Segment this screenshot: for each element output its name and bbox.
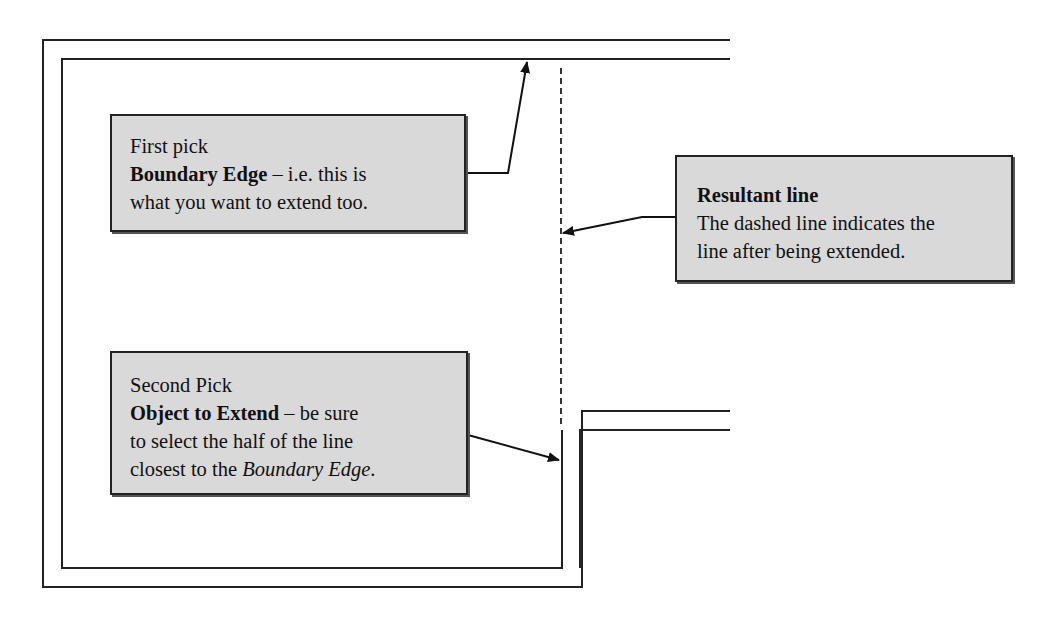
callout-second-pick: Second Pick Object to Extend – be sure t… [110, 351, 468, 495]
object-to-extend-term: Object to Extend [130, 402, 279, 424]
second-pick-line-2: Object to Extend – be sure [130, 399, 448, 427]
diagram-canvas [0, 0, 1050, 621]
first-pick-title: First pick [130, 132, 446, 160]
resultant-line-2: The dashed line indicates the [697, 209, 993, 237]
resultant-title: Resultant line [697, 181, 993, 209]
first-pick-line-2: Boundary Edge – i.e. this is [130, 160, 446, 188]
boundary-edge-term: Boundary Edge [130, 163, 267, 185]
second-pick-line-4: closest to the Boundary Edge. [130, 455, 448, 483]
resultant-line-3: line after being extended. [697, 237, 993, 265]
inner-wall-step-line [580, 430, 730, 568]
second-pick-line-3: to select the half of the line [130, 427, 448, 455]
boundary-edge-italic: Boundary Edge [242, 458, 370, 480]
leader-arrow-object-to-extend [468, 435, 559, 460]
leader-arrow-resultant-line [563, 217, 676, 233]
second-pick-title: Second Pick [130, 371, 448, 399]
callout-resultant-line: Resultant line The dashed line indicates… [675, 155, 1013, 282]
callout-first-pick: First pick Boundary Edge – i.e. this is … [110, 114, 466, 232]
first-pick-line-3: what you want to extend too. [130, 188, 446, 216]
leader-arrow-boundary-edge [466, 62, 527, 173]
